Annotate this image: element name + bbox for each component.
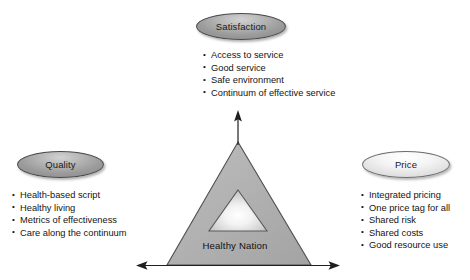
node-price-label: Price <box>395 159 417 170</box>
list-item: One price tag for all <box>361 202 450 215</box>
list-item: Good resource use <box>361 239 450 252</box>
list-item: Shared costs <box>361 227 450 240</box>
list-item: Shared risk <box>361 214 450 227</box>
list-item: Good service <box>203 62 335 75</box>
node-price[interactable]: Price <box>362 151 450 178</box>
list-item: Care along the continuum <box>12 227 126 240</box>
diagram-canvas: Healthy Nation Satisfaction Access to se… <box>0 0 470 280</box>
horizontal-double-arrow <box>136 261 340 269</box>
list-item: Safe environment <box>203 74 335 87</box>
list-item: Health-based script <box>12 189 126 202</box>
node-quality-label: Quality <box>45 159 75 170</box>
inner-triangle <box>209 190 267 231</box>
bullet-list-satisfaction: Access to service Good service Safe envi… <box>203 49 335 99</box>
node-quality[interactable]: Quality <box>17 151 104 178</box>
node-satisfaction-label: Satisfaction <box>216 21 266 32</box>
bullet-list-price: Integrated pricing One price tag for all… <box>361 189 450 252</box>
list-item: Continuum of effective service <box>203 87 335 100</box>
list-item: Integrated pricing <box>361 189 450 202</box>
list-item: Access to service <box>203 49 335 62</box>
list-item: Healthy living <box>12 202 126 215</box>
list-item: Metrics of effectiveness <box>12 214 126 227</box>
node-satisfaction[interactable]: Satisfaction <box>196 13 286 40</box>
vertical-up-arrow <box>234 110 242 145</box>
bullet-list-quality: Health-based script Healthy living Metri… <box>12 189 126 239</box>
